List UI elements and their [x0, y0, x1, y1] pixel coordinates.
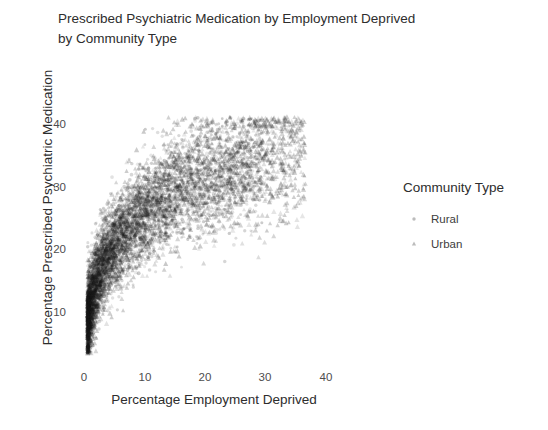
plot-area	[74, 60, 360, 365]
x-tick-label-20: 20	[192, 371, 218, 383]
legend-item-rural[interactable]: Rural	[403, 206, 543, 231]
chart-title: Prescribed Psychiatric Medication by Emp…	[58, 9, 528, 49]
scatter-plot-figure: Prescribed Psychiatric Medication by Emp…	[0, 0, 548, 430]
chart-title-line-2: by Community Type	[58, 29, 528, 49]
y-tick-label-40: 40	[40, 118, 66, 130]
y-tick-label-20: 20	[40, 243, 66, 255]
x-axis-label: Percentage Employment Deprived	[84, 392, 344, 407]
legend-item-urban[interactable]: Urban	[403, 231, 543, 256]
y-tick-label-10: 10	[40, 306, 66, 318]
chart-title-line-1: Prescribed Psychiatric Medication by Emp…	[58, 9, 528, 29]
scatter-canvas	[74, 60, 360, 365]
legend-label-urban: Urban	[431, 238, 462, 250]
legend-key-triangle-icon	[403, 233, 425, 255]
x-tick-label-40: 40	[313, 371, 339, 383]
x-tick-label-0: 0	[71, 371, 97, 383]
x-tick-label-30: 30	[252, 371, 278, 383]
x-tick-label-10: 10	[132, 371, 158, 383]
legend-label-rural: Rural	[431, 213, 458, 225]
legend: Community Type Rural Urban	[403, 180, 543, 256]
legend-title: Community Type	[403, 180, 543, 195]
y-tick-label-30: 30	[40, 181, 66, 193]
legend-key-circle-icon	[403, 208, 425, 230]
